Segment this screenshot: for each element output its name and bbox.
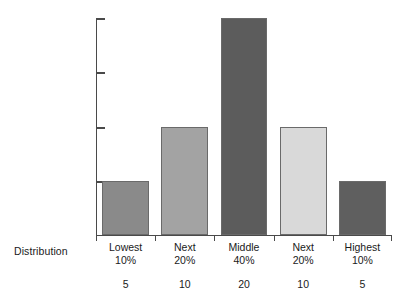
category-label-percent: 10%: [96, 254, 155, 267]
value-label: 20: [214, 278, 273, 290]
plot-area: [96, 18, 392, 236]
category-label: Middle40%: [214, 241, 273, 267]
value-label: 5: [96, 278, 155, 290]
category-label-name: Next: [155, 241, 214, 254]
value-label: 10: [274, 278, 333, 290]
category-label: Lowest10%: [96, 241, 155, 267]
value-label: 5: [333, 278, 392, 290]
bar: [339, 181, 386, 235]
x-axis-caption: Distribution: [14, 245, 68, 257]
bar-chart: Distribution Lowest10%Next20%Middle40%Ne…: [0, 0, 419, 306]
category-label: Highest10%: [333, 241, 392, 267]
category-label-percent: 40%: [214, 254, 273, 267]
bar: [102, 181, 149, 235]
bar-series: [96, 18, 392, 236]
category-label-percent: 20%: [155, 254, 214, 267]
category-label-name: Highest: [333, 241, 392, 254]
category-label: Next20%: [274, 241, 333, 267]
category-label-percent: 10%: [333, 254, 392, 267]
category-label-name: Next: [274, 241, 333, 254]
bar: [280, 127, 327, 236]
category-label-percent: 20%: [274, 254, 333, 267]
category-label-name: Lowest: [96, 241, 155, 254]
category-label: Next20%: [155, 241, 214, 267]
category-label-name: Middle: [214, 241, 273, 254]
value-label: 10: [155, 278, 214, 290]
value-labels: 51020105: [96, 278, 392, 294]
bar: [221, 18, 268, 235]
bar: [161, 127, 208, 236]
category-labels: Lowest10%Next20%Middle40%Next20%Highest1…: [96, 241, 392, 275]
